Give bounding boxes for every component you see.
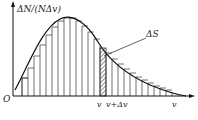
x-axis-label: v bbox=[172, 100, 177, 109]
strip-left-label: v bbox=[97, 100, 102, 109]
y-axis-label: ΔN/(NΔv) bbox=[16, 4, 61, 14]
area-pointer-line bbox=[104, 38, 146, 56]
strip-right-label: v+Δv bbox=[106, 100, 128, 109]
origin-label: O bbox=[3, 94, 11, 104]
x-axis-arrow-icon bbox=[189, 94, 195, 98]
y-axis-arrow-icon bbox=[11, 1, 15, 7]
maxwell-distribution-diagram: ΔN/(NΔv) O v v+Δv v ΔS bbox=[0, 0, 198, 120]
area-label: ΔS bbox=[145, 29, 159, 39]
